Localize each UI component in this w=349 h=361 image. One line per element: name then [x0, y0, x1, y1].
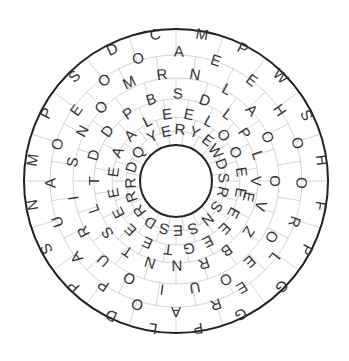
puzzle-letter[interactable]: S	[36, 241, 56, 258]
puzzle-letter[interactable]: A	[120, 125, 139, 144]
puzzle-letter[interactable]: H	[313, 153, 331, 166]
puzzle-letter[interactable]: D	[103, 39, 120, 59]
puzzle-letter[interactable]: O	[129, 295, 145, 315]
puzzle-letter[interactable]: E	[200, 232, 217, 252]
puzzle-letter[interactable]: E	[241, 252, 260, 271]
puzzle-letter[interactable]: P	[235, 124, 255, 142]
puzzle-letter[interactable]: F	[312, 200, 330, 212]
puzzle-letter[interactable]: H	[270, 101, 290, 120]
sector-divider	[278, 197, 301, 201]
puzzle-letter[interactable]: O	[262, 228, 283, 247]
puzzle-letter[interactable]: O	[91, 97, 111, 117]
sector-divider	[250, 283, 265, 304]
puzzle-letter[interactable]: U	[47, 214, 67, 230]
puzzle-letter[interactable]: S	[215, 172, 233, 183]
puzzle-letter[interactable]: T	[85, 176, 102, 185]
puzzle-letter[interactable]: D	[97, 121, 117, 140]
puzzle-letter[interactable]: R	[285, 214, 305, 230]
center-hole	[140, 145, 212, 217]
puzzle-letter[interactable]: U	[188, 279, 202, 298]
puzzle-letter[interactable]: O	[130, 48, 146, 68]
puzzle-letter[interactable]: S	[63, 156, 82, 169]
puzzle-letter[interactable]: D	[141, 213, 159, 233]
puzzle-letter[interactable]: R	[121, 177, 138, 189]
puzzle-letter[interactable]: O	[288, 135, 308, 151]
puzzle-letter[interactable]: Y	[144, 126, 161, 146]
puzzle-letter[interactable]: E	[233, 278, 250, 298]
puzzle-letter[interactable]: S	[157, 220, 171, 239]
puzzle-letter[interactable]: R	[196, 254, 212, 274]
puzzle-letter[interactable]: S	[173, 84, 183, 101]
puzzle-letter[interactable]: A	[41, 178, 58, 188]
puzzle-letter[interactable]: E	[232, 187, 251, 200]
puzzle-letter[interactable]: O	[47, 136, 67, 152]
puzzle-letter[interactable]: R	[121, 189, 141, 205]
puzzle-letter[interactable]: S	[97, 224, 117, 242]
word-circle-puzzle: DCMPWSHFPGGPLDPSNMPSOAEEHOORLERAOPAUAOEO…	[0, 0, 349, 361]
puzzle-letter[interactable]: N	[171, 257, 182, 274]
puzzle-letter[interactable]: O	[293, 177, 310, 189]
puzzle-letter[interactable]: B	[218, 241, 236, 261]
puzzle-letter[interactable]: L	[249, 148, 268, 161]
puzzle-letter[interactable]: E	[173, 222, 184, 239]
puzzle-letter[interactable]: A	[171, 304, 181, 321]
puzzle-letter[interactable]: N	[142, 253, 157, 272]
puzzle-letter[interactable]: S	[297, 107, 317, 124]
puzzle-letter[interactable]: P	[63, 277, 82, 296]
sector-divider	[156, 283, 160, 306]
puzzle-letter[interactable]: L	[84, 202, 103, 215]
puzzle-letter[interactable]: Y	[187, 122, 202, 141]
puzzle-letter[interactable]: O	[258, 128, 278, 146]
puzzle-letter[interactable]: S	[64, 66, 83, 85]
puzzle-letter[interactable]: R	[213, 185, 232, 200]
puzzle-letter[interactable]: G	[272, 277, 292, 297]
puzzle-letter[interactable]: S	[185, 219, 200, 238]
puzzle-letter[interactable]: O	[267, 175, 284, 187]
puzzle-letter[interactable]: L	[266, 249, 285, 266]
puzzle-letter[interactable]: M	[194, 25, 209, 44]
puzzle-letter[interactable]: E	[215, 219, 234, 238]
puzzle-letter[interactable]: T	[118, 242, 135, 261]
puzzle-letter[interactable]: B	[144, 89, 159, 108]
puzzle-letter[interactable]: G	[182, 240, 197, 259]
puzzle-letter[interactable]: L	[219, 80, 235, 99]
puzzle-letter[interactable]: A	[174, 42, 184, 59]
puzzle-letter[interactable]: L	[201, 112, 217, 131]
puzzle-letter[interactable]: E	[104, 186, 123, 199]
puzzle-letter[interactable]: W	[270, 65, 293, 88]
puzzle-letter[interactable]: D	[83, 147, 103, 163]
puzzle-letter[interactable]: U	[93, 251, 112, 271]
puzzle-letter[interactable]: E	[209, 50, 224, 69]
puzzle-letter[interactable]: E	[159, 122, 172, 141]
puzzle-letter[interactable]: L	[148, 320, 159, 338]
puzzle-letter[interactable]: I	[64, 195, 81, 202]
puzzle-letter[interactable]: R	[174, 120, 186, 138]
puzzle-letter[interactable]: E	[121, 220, 140, 239]
puzzle-letter[interactable]: A	[107, 144, 127, 160]
puzzle-letter[interactable]: C	[148, 25, 161, 43]
puzzle-letter[interactable]: E	[161, 105, 173, 123]
puzzle-letter[interactable]: N	[72, 122, 92, 140]
puzzle-letter[interactable]: E	[243, 70, 261, 90]
puzzle-letter[interactable]: E	[139, 233, 155, 253]
puzzle-letter[interactable]: P	[192, 320, 204, 338]
puzzle-letter[interactable]: R	[156, 65, 169, 83]
puzzle-letter[interactable]: T	[162, 241, 173, 259]
puzzle-letter[interactable]: A	[66, 249, 86, 267]
puzzle-letter[interactable]: A	[242, 101, 261, 120]
puzzle-letter[interactable]: V	[248, 176, 265, 186]
puzzle-letter[interactable]: M	[23, 153, 42, 168]
puzzle-letter[interactable]: P	[36, 105, 56, 122]
puzzle-letter[interactable]: O	[217, 270, 235, 290]
puzzle-letter[interactable]: E	[104, 166, 122, 178]
puzzle-letter[interactable]: O	[120, 269, 138, 289]
puzzle-letter[interactable]: M	[120, 72, 139, 93]
puzzle-letter[interactable]: L	[219, 105, 236, 124]
sector-divider	[278, 161, 301, 165]
puzzle-letter[interactable]: Z	[239, 223, 258, 240]
